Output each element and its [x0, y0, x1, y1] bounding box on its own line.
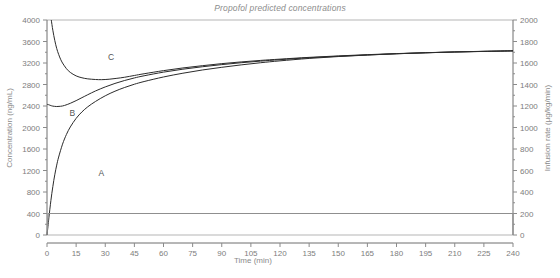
- right-axis-ticks: 0200400600800100012001400160018002000: [513, 16, 538, 240]
- curve-label-group: ABC: [69, 52, 114, 178]
- propofol-concentration-chart: 040080012001600200024002800320036004000 …: [0, 0, 560, 278]
- x-axis-ticks: 0153045607590105120135150165180195210225…: [45, 243, 520, 258]
- y-tick-label: 1200: [22, 167, 40, 176]
- y-tick-label: 2400: [22, 102, 40, 111]
- y2-tick-label: 400: [520, 188, 534, 197]
- y-tick-label: 3200: [22, 59, 40, 68]
- y2-tick-label: 200: [520, 210, 534, 219]
- x-tick-label: 120: [273, 249, 287, 258]
- x-tick-label: 60: [159, 249, 168, 258]
- x-tick-label: 240: [506, 249, 520, 258]
- y2-tick-label: 1800: [520, 38, 538, 47]
- curve-label-a: A: [99, 168, 105, 178]
- curve-label-c: C: [108, 52, 114, 62]
- y-tick-label: 4000: [22, 16, 40, 25]
- x-tick-label: 225: [477, 249, 491, 258]
- x-tick-label: 15: [72, 249, 81, 258]
- y-tick-label: 400: [27, 210, 41, 219]
- curve-label-b: B: [69, 108, 75, 118]
- infusion-rate-group: [47, 214, 513, 236]
- concentration-curve-c: [51, 20, 513, 80]
- x-axis-title: Time (min): [234, 256, 272, 265]
- y-tick-label: 2800: [22, 81, 40, 90]
- x-tick-label: 165: [361, 249, 375, 258]
- y2-tick-label: 1600: [520, 59, 538, 68]
- x-tick-label: 90: [217, 249, 226, 258]
- y2-axis-title: Infusion rate (µg/kg/min): [543, 84, 552, 171]
- x-tick-label: 195: [419, 249, 433, 258]
- x-tick-label: 150: [332, 249, 346, 258]
- x-tick-label: 75: [188, 249, 197, 258]
- left-axis-ticks: 040080012001600200024002800320036004000: [22, 16, 47, 240]
- y2-tick-label: 800: [520, 145, 534, 154]
- y-tick-label: 800: [27, 188, 41, 197]
- y2-tick-label: 0: [520, 231, 525, 240]
- y2-tick-label: 600: [520, 167, 534, 176]
- x-tick-label: 45: [130, 249, 139, 258]
- curve-group: [47, 20, 513, 235]
- y-tick-label: 2000: [22, 124, 40, 133]
- y2-tick-label: 2000: [520, 16, 538, 25]
- y-axis-title: Concentration (ng/mL): [5, 88, 14, 168]
- x-tick-label: 135: [302, 249, 316, 258]
- chart-figure: Propofol predicted concentrations 040080…: [0, 0, 560, 278]
- y-tick-label: 1600: [22, 145, 40, 154]
- y2-tick-label: 1400: [520, 81, 538, 90]
- x-tick-label: 180: [390, 249, 404, 258]
- x-tick-label: 210: [448, 249, 462, 258]
- y-tick-label: 3600: [22, 38, 40, 47]
- x-tick-label: 0: [45, 249, 50, 258]
- infusion-rate-line: [47, 214, 513, 236]
- y2-tick-label: 1200: [520, 102, 538, 111]
- y2-tick-label: 1000: [520, 124, 538, 133]
- y-tick-label: 0: [36, 231, 41, 240]
- x-tick-label: 30: [101, 249, 110, 258]
